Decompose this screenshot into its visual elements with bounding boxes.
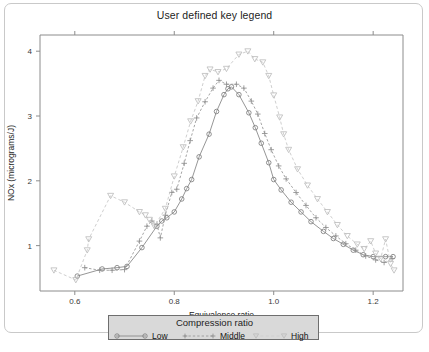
figure-root: User defined key legend 0.60.81.01.21234… <box>0 0 429 352</box>
legend-entry-middle[interactable]: Middle <box>181 330 245 341</box>
series-middle <box>82 78 395 273</box>
data-point <box>255 111 261 117</box>
x-tick-label: 0.6 <box>69 297 81 306</box>
data-point <box>194 115 200 121</box>
data-point <box>174 186 180 192</box>
data-point <box>234 81 240 87</box>
plus-icon <box>181 331 217 341</box>
y-axis-label: NOx (micrograms/J) <box>6 125 16 201</box>
legend-label-middle: Middle <box>220 331 245 341</box>
data-point <box>283 176 289 182</box>
data-point <box>241 85 247 91</box>
data-point <box>262 131 268 137</box>
data-point <box>97 267 103 273</box>
legend-label-high: High <box>291 331 308 341</box>
legend-entry-low[interactable]: Low <box>113 330 168 341</box>
data-point <box>276 163 282 169</box>
legend-title: Compression ratio <box>109 317 320 328</box>
data-point <box>271 93 277 98</box>
legend-label-low: Low <box>152 331 168 341</box>
data-point <box>144 223 150 229</box>
data-point <box>361 246 367 251</box>
plot-frame <box>40 35 403 291</box>
x-tick-label: 0.8 <box>169 297 181 306</box>
data-point <box>136 210 142 215</box>
series-line <box>54 51 394 280</box>
data-point <box>181 161 187 167</box>
triangle-down-icon <box>252 331 288 341</box>
data-point <box>268 147 274 153</box>
data-point <box>363 253 369 259</box>
series-group <box>51 49 397 283</box>
legend-entry-high[interactable]: High <box>252 330 308 341</box>
legend-box[interactable]: Compression ratio Low Middle <box>108 315 319 340</box>
axes-group: 0.60.81.01.21234Equivalence ratioNOx (mi… <box>6 31 403 320</box>
data-point <box>158 235 164 241</box>
data-point <box>252 57 258 62</box>
data-point <box>381 260 387 266</box>
y-tick-label: 3 <box>28 112 33 121</box>
data-point <box>391 268 397 273</box>
series-low <box>75 85 395 279</box>
data-point <box>373 257 379 263</box>
data-point <box>82 265 88 271</box>
x-tick-label: 1.0 <box>268 297 280 306</box>
plot-area: 0.60.81.01.21234Equivalence ratioNOx (mi… <box>0 0 429 352</box>
data-point <box>249 98 255 104</box>
data-point <box>223 66 229 71</box>
y-tick-label: 4 <box>28 47 33 56</box>
x-tick-label: 1.2 <box>368 297 380 306</box>
circle-icon <box>113 331 149 341</box>
data-point <box>122 267 128 273</box>
data-point <box>210 85 216 91</box>
data-point <box>333 233 339 239</box>
series-line <box>77 87 393 276</box>
data-point <box>313 215 319 221</box>
y-tick-label: 2 <box>28 177 33 186</box>
data-point <box>202 73 208 78</box>
data-point <box>187 138 193 144</box>
data-point <box>202 99 208 105</box>
legend-entries: Low Middle High <box>109 330 320 341</box>
data-point <box>137 238 143 244</box>
y-tick-label: 1 <box>28 242 33 251</box>
